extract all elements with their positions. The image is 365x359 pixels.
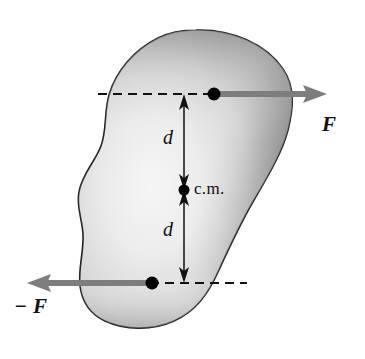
force-application-point-upper	[208, 88, 221, 101]
distance-label-upper: d	[163, 126, 173, 149]
center-of-mass-point	[179, 185, 190, 196]
couple-diagram-figure: F − F d d c.m.	[0, 0, 365, 359]
force-application-point-lower	[146, 277, 159, 290]
distance-label-lower: d	[163, 218, 173, 241]
force-label-positive: F	[322, 112, 337, 137]
force-label-negative: − F	[14, 294, 47, 319]
diagram-canvas	[0, 0, 365, 359]
center-of-mass-label: c.m.	[194, 179, 224, 199]
